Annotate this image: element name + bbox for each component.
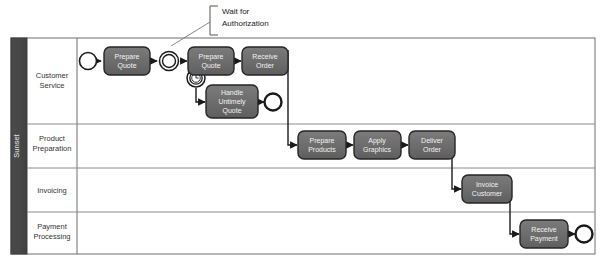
start-event-circle[interactable] bbox=[80, 53, 97, 70]
end-event-untimely[interactable] bbox=[265, 94, 282, 111]
task-receive-order-box[interactable] bbox=[242, 47, 288, 75]
task-apply-graphics[interactable]: Apply Graphics bbox=[354, 131, 401, 159]
task-receive-order[interactable]: Receive Order bbox=[242, 47, 288, 75]
task-prepare-quote-1[interactable]: Prepare Quote bbox=[104, 47, 150, 75]
bpmn-diagram: Sunset Customer Service Product Preparat… bbox=[0, 0, 609, 263]
task-invoice-customer[interactable]: Invoice Customer bbox=[462, 175, 512, 203]
task-deliver-order[interactable]: Deliver Order bbox=[409, 131, 455, 159]
bpmn-diagram-canvas: Sunset Customer Service Product Preparat… bbox=[0, 0, 609, 263]
task-deliver-order-box[interactable] bbox=[409, 131, 455, 159]
end-event-payment[interactable] bbox=[576, 226, 593, 243]
end-event-payment-circle[interactable] bbox=[576, 226, 593, 243]
task-prepare-products[interactable]: Prepare Products bbox=[298, 131, 346, 159]
task-prepare-quote-2[interactable]: Prepare Quote bbox=[188, 47, 234, 75]
task-prepare-products-box[interactable] bbox=[298, 131, 346, 159]
task-prepare-quote-1-box[interactable] bbox=[104, 47, 150, 75]
task-apply-graphics-box[interactable] bbox=[354, 131, 401, 159]
task-prepare-quote-2-box[interactable] bbox=[188, 47, 234, 75]
intermediate-event-wait[interactable] bbox=[160, 52, 179, 71]
annotation-bracket bbox=[210, 6, 218, 35]
task-receive-payment[interactable]: Receive Payment bbox=[520, 220, 568, 248]
task-receive-payment-box[interactable] bbox=[520, 220, 568, 248]
start-event[interactable] bbox=[80, 53, 97, 70]
pool-header-band bbox=[11, 38, 27, 254]
end-event-untimely-circle[interactable] bbox=[265, 94, 282, 111]
task-handle-untimely-quote[interactable]: Handle Untimely Quote bbox=[206, 85, 258, 118]
task-handle-untimely-quote-box[interactable] bbox=[206, 85, 258, 118]
annotation-line1: Wait for bbox=[222, 7, 250, 16]
annotation-line2: Authorization bbox=[222, 19, 269, 28]
task-invoice-customer-box[interactable] bbox=[462, 175, 512, 203]
intermediate-event-inner-circle bbox=[163, 55, 176, 68]
